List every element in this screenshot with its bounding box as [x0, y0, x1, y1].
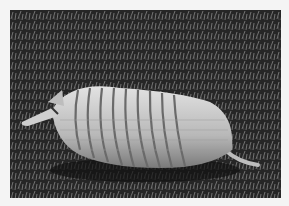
armadillo-photo: [10, 10, 281, 198]
photo-canvas: [10, 10, 281, 198]
